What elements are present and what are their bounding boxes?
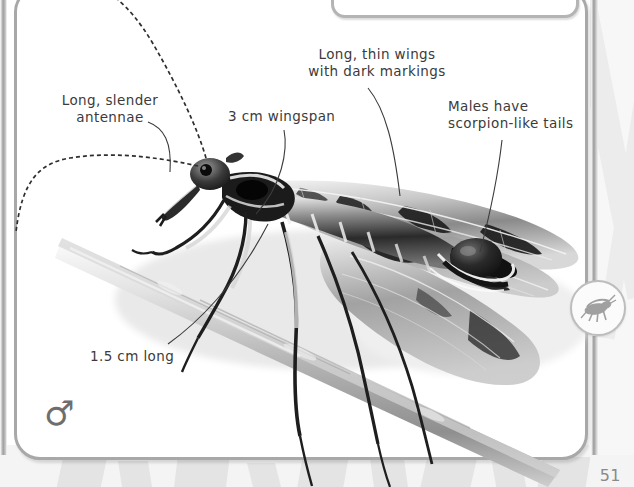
annotation-wingspan: 3 cm wingspan	[228, 108, 378, 125]
cut-off-caption-box	[331, 0, 579, 18]
gutter-rule-upper	[591, 0, 598, 300]
cricket-icon	[579, 291, 617, 325]
annotation-length: 1.5 cm long	[90, 348, 220, 365]
page-number: 51	[600, 466, 621, 485]
annotation-tails: Males have scorpion-like tails	[448, 98, 608, 132]
male-symbol: ♂	[44, 396, 74, 430]
annotation-antennae: Long, slender antennae	[40, 92, 180, 126]
gutter-rule-lower	[591, 336, 598, 455]
annotation-wings: Long, thin wings with dark markings	[296, 46, 458, 80]
book-page: Long, slender antennae 3 cm wingspan Lon…	[0, 0, 634, 487]
page-edge-left	[0, 0, 7, 455]
insect-silhouette-badge[interactable]	[570, 280, 626, 336]
